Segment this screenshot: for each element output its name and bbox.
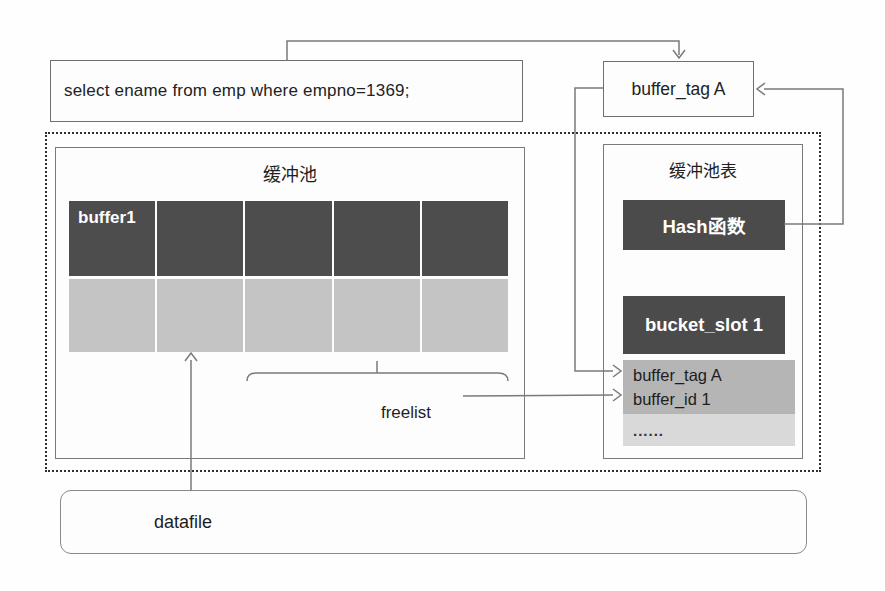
diagram-canvas: select ename from emp where empno=1369; … — [0, 0, 885, 591]
buffer-cell-light — [157, 279, 243, 352]
bucket-slot-label: bucket_slot 1 — [645, 314, 763, 336]
buffer-cell-light — [422, 279, 508, 352]
more-entries-box: ...... — [623, 414, 795, 446]
entry-buffer-tag: buffer_tag A — [633, 363, 795, 387]
datafile-box: datafile — [60, 490, 807, 554]
more-entries-label: ...... — [633, 422, 664, 439]
buffer-cell-light — [69, 279, 155, 352]
hash-function-box: Hash函数 — [623, 200, 785, 250]
buffer-grid-dark-row: buffer1 — [69, 201, 508, 276]
buffer-cell-dark — [157, 201, 243, 276]
entry-buffer-id: buffer_id 1 — [633, 387, 795, 411]
arrow-left-icon — [757, 83, 765, 95]
buffer-table-box: 缓冲池表 Hash函数 bucket_slot 1 buffer_tag A b… — [603, 144, 803, 459]
sql-query-box: select ename from emp where empno=1369; — [50, 60, 523, 122]
buffer-tag-text: buffer_tag A — [631, 79, 725, 100]
arrow-down-icon — [673, 50, 685, 58]
bucket-slot-box: bucket_slot 1 — [623, 296, 785, 354]
buffer-cell-dark — [422, 201, 508, 276]
buffer-cell-dark — [245, 201, 331, 276]
buffer-cell-dark: buffer1 — [69, 201, 155, 276]
buffer-cell-light — [245, 279, 331, 352]
buffer-cell-light — [334, 279, 420, 352]
sql-query-text: select ename from emp where empno=1369; — [64, 81, 410, 101]
arrow-sql-to-buffertag-line — [287, 41, 679, 60]
hash-function-label: Hash函数 — [662, 212, 745, 238]
buffer-table-title: 缓冲池表 — [604, 157, 802, 182]
buffer-grid: buffer1 — [69, 201, 508, 352]
buffer-pool-title: 缓冲池 — [56, 160, 524, 186]
bucket-entry-box: buffer_tag A buffer_id 1 — [623, 360, 795, 414]
buffer-grid-light-row — [69, 279, 508, 352]
buffer1-label: buffer1 — [78, 208, 136, 228]
buffer-tag-box: buffer_tag A — [603, 61, 754, 117]
freelist-label: freelist — [341, 403, 471, 423]
buffer-cell-dark — [334, 201, 420, 276]
datafile-label: datafile — [154, 512, 212, 533]
